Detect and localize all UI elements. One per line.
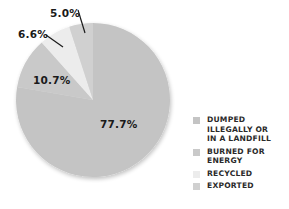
legend-swatch-dumped: [193, 117, 200, 124]
legend-label-recycled: RECYCLED: [207, 169, 252, 179]
chart-legend: DUMPED ILLEGALLY OR IN A LANDFILL BURNED…: [193, 115, 289, 194]
legend-swatch-burned: [193, 149, 200, 156]
legend-label-exported: EXPORTED: [207, 181, 254, 191]
legend-swatch-exported: [193, 183, 200, 190]
recycled-percent-label: 6.6%: [18, 28, 48, 40]
exported-percent-label: 5.0%: [50, 7, 80, 19]
legend-item-dumped: DUMPED ILLEGALLY OR IN A LANDFILL: [193, 115, 289, 144]
burned-percent-label: 10.7%: [33, 74, 70, 86]
legend-item-burned: BURNED FOR ENERGY: [193, 147, 289, 166]
legend-item-exported: EXPORTED: [193, 181, 289, 191]
legend-label-dumped: DUMPED ILLEGALLY OR IN A LANDFILL: [207, 115, 271, 144]
legend-swatch-recycled: [193, 171, 200, 178]
legend-label-burned: BURNED FOR ENERGY: [207, 147, 265, 166]
legend-item-recycled: RECYCLED: [193, 169, 289, 179]
dumped-percent-label: 77.7%: [100, 118, 137, 130]
